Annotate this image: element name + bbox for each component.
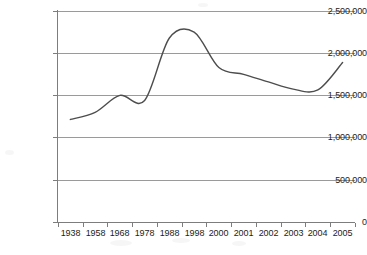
y-axis-label-0: 0 [315,218,367,227]
x-axis-label-1988: 1988 [157,228,182,238]
x-tick-mark [281,223,282,227]
scan-artifact [5,150,14,155]
x-axis-label-1968: 1968 [107,228,132,238]
x-tick-mark [132,223,133,227]
y-tick-mark [53,222,57,223]
x-tick-mark [231,223,232,227]
x-tick-mark [355,223,356,227]
x-axis-label-2002: 2002 [256,228,281,238]
scan-artifact [198,3,208,7]
x-axis-label-2004: 2004 [305,228,330,238]
gridline-1000000 [58,137,355,138]
scan-artifact [172,238,190,243]
y-tick-mark [53,95,57,96]
x-tick-mark [182,223,183,227]
scan-artifact [232,241,246,246]
scan-artifact [110,240,132,246]
x-tick-mark [256,223,257,227]
y-tick-mark [53,137,57,138]
plot-area [58,11,355,222]
x-tick-mark [157,223,158,227]
y-tick-mark [53,180,57,181]
y-axis-label-2000000: 2,000,000 [315,49,367,58]
x-tick-mark [58,223,59,227]
x-axis-label-1938: 1938 [58,228,83,238]
x-axis-label-2000: 2000 [206,228,231,238]
x-axis-label-2001: 2001 [231,228,256,238]
y-tick-mark [53,11,57,12]
y-axis-label-1000000: 1,000,000 [315,133,367,142]
y-axis-label-2500000: 2,500,000 [315,7,367,16]
y-axis-label-500000: 500,000 [315,176,367,185]
x-axis-label-1978: 1978 [132,228,157,238]
x-tick-mark [305,223,306,227]
x-tick-mark [107,223,108,227]
y-axis-line [57,10,58,223]
x-tick-mark [206,223,207,227]
x-axis-label-1998: 1998 [182,228,207,238]
gridline-2000000 [58,53,355,54]
x-tick-mark [330,223,331,227]
line-chart: 2,500,000 2,000,000 1,500,000 1,000,000 … [0,0,367,255]
x-axis-label-2005: 2005 [330,228,355,238]
y-tick-mark [53,53,57,54]
gridline-500000 [58,180,355,181]
x-tick-mark [83,223,84,227]
gridline-2500000 [58,11,355,12]
x-axis-label-2003: 2003 [281,228,306,238]
y-axis-label-1500000: 1,500,000 [315,91,367,100]
gridline-1500000 [58,95,355,96]
x-axis-label-1958: 1958 [83,228,108,238]
